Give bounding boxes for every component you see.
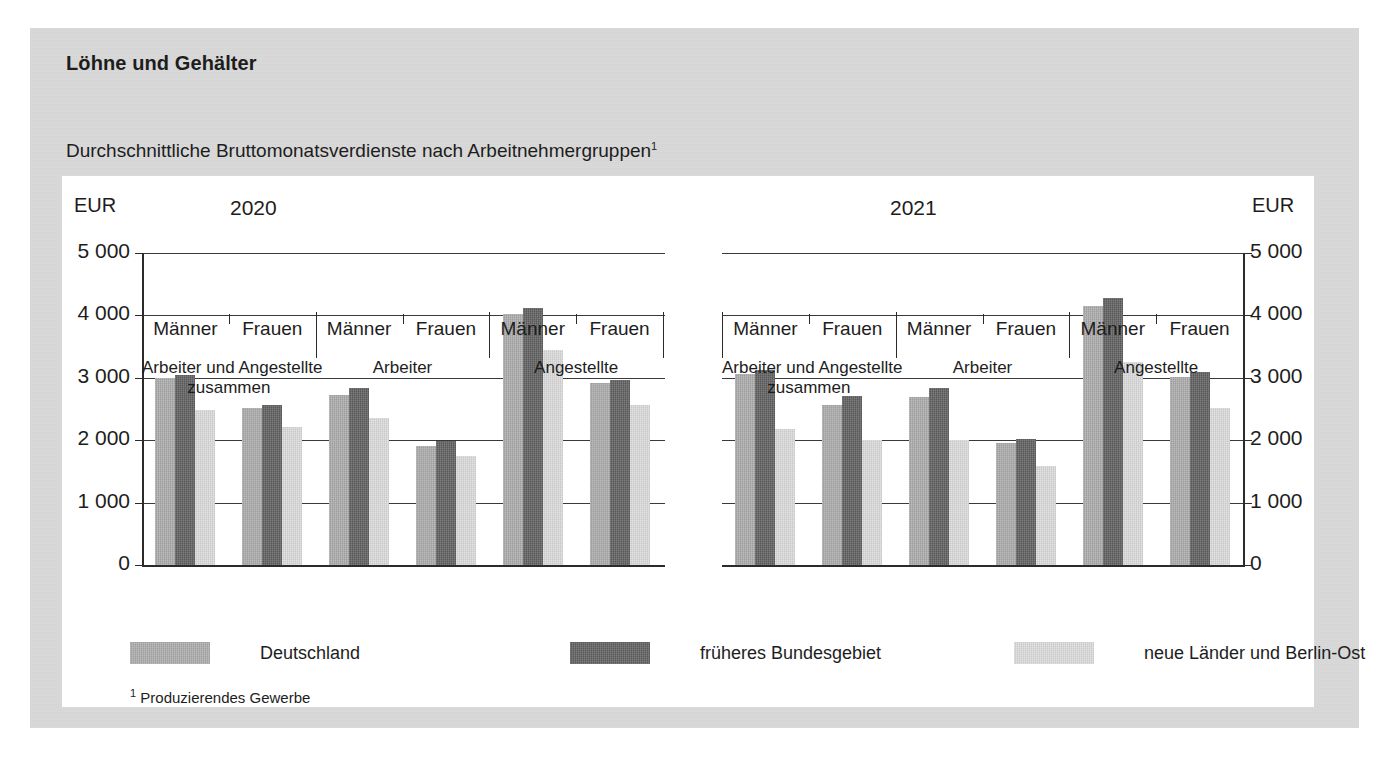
- x-axis-label-männer: Männer: [489, 318, 576, 340]
- bar: [543, 350, 563, 565]
- x-axis-minor-separator: [403, 314, 404, 324]
- legend-item[interactable]: neue Länder und Berlin-Ost: [1014, 640, 1365, 666]
- bar: [949, 440, 969, 565]
- x-axis-group-separator: [489, 312, 490, 358]
- chart-subtitle: Durchschnittliche Bruttomonatsverdienste…: [66, 140, 657, 162]
- x-axis-group-label: Angestellte: [489, 358, 663, 378]
- bar: [929, 388, 949, 565]
- bar: [630, 405, 650, 565]
- y-tick-label-right: 4 000: [1250, 301, 1303, 325]
- bar: [755, 370, 775, 565]
- legend-label: neue Länder und Berlin-Ost: [1144, 643, 1365, 664]
- axis-tick: [135, 565, 144, 566]
- bars-layer-2021: [722, 253, 1243, 565]
- x-axis-group-label-line1: Arbeiter und Angestellte: [142, 358, 316, 378]
- x-axis-label-frauen: Frauen: [403, 318, 490, 340]
- x-axis-label-frauen: Frauen: [229, 318, 316, 340]
- page-title: Löhne und Gehälter: [66, 52, 257, 75]
- chart-panel-2021: [722, 253, 1243, 565]
- page-root: Löhne und Gehälter Durchschnittliche Bru…: [0, 0, 1391, 775]
- legend-item[interactable]: früheres Bundesgebiet: [570, 640, 881, 666]
- bar: [842, 396, 862, 565]
- bar: [862, 440, 882, 565]
- x-axis-group-label-line1: Arbeiter: [316, 358, 490, 378]
- bar: [775, 429, 795, 565]
- x-axis-minor-separator: [229, 314, 230, 324]
- bar: [996, 443, 1016, 565]
- x-axis-minor-separator: [809, 314, 810, 324]
- y-axis-unit-left: EUR: [74, 194, 116, 217]
- bar: [909, 397, 929, 565]
- x-axis-label-männer: Männer: [316, 318, 403, 340]
- legend-label: Deutschland: [260, 643, 360, 664]
- x-axis-minor-separator: [576, 314, 577, 324]
- x-axis-group-separator: [896, 312, 897, 358]
- bar: [735, 374, 755, 565]
- bar: [590, 383, 610, 565]
- x-axis-label-männer: Männer: [722, 318, 809, 340]
- x-axis-group-label-line1: Arbeiter: [896, 358, 1070, 378]
- chart-panel-2020: [142, 253, 663, 565]
- x-axis-group-label-line1: Angestellte: [489, 358, 663, 378]
- x-axis-boundary-separator: [1243, 312, 1244, 358]
- legend-item[interactable]: Deutschland: [130, 640, 360, 666]
- x-axis-label-männer: Männer: [142, 318, 229, 340]
- x-axis-group-label-line2: zusammen: [722, 378, 896, 398]
- legend-label: früheres Bundesgebiet: [700, 643, 881, 664]
- bar: [329, 395, 349, 565]
- bar: [610, 380, 630, 565]
- bar: [1083, 306, 1103, 565]
- bar: [1190, 372, 1210, 565]
- x-axis-group-separator: [1069, 312, 1070, 358]
- legend-swatch: [130, 642, 210, 664]
- y-tick-label-left: 5 000: [77, 239, 130, 263]
- legend-swatch: [570, 642, 650, 664]
- x-axis-label-männer: Männer: [896, 318, 983, 340]
- bar: [195, 410, 215, 565]
- bar: [822, 405, 842, 565]
- x-axis-minor-separator: [983, 314, 984, 324]
- panel-title-2021: 2021: [890, 196, 937, 220]
- legend: Deutschlandfrüheres Bundesgebietneue Län…: [62, 640, 1314, 676]
- x-axis-group-label: Angestellte: [1069, 358, 1243, 378]
- x-axis-group-label: Arbeiter: [896, 358, 1070, 378]
- bar: [1123, 362, 1143, 565]
- y-tick-label-right: 5 000: [1250, 239, 1303, 263]
- y-tick-label-left: 2 000: [77, 426, 130, 450]
- y-tick-label-left: 0: [118, 551, 130, 575]
- bar: [1170, 377, 1190, 565]
- legend-swatch: [1014, 642, 1094, 664]
- x-axis-label-männer: Männer: [1069, 318, 1156, 340]
- bar: [456, 456, 476, 565]
- bar: [1036, 466, 1056, 565]
- bars-layer-2020: [142, 253, 663, 565]
- bar: [523, 308, 543, 565]
- bar: [503, 314, 523, 565]
- x-axis-label-frauen: Frauen: [576, 318, 663, 340]
- footnote: 1 Produzierendes Gewerbe: [130, 687, 310, 706]
- x-axis-group-label: Arbeiter und Angestelltezusammen: [722, 358, 896, 398]
- x-axis-label-frauen: Frauen: [809, 318, 896, 340]
- x-axis-boundary-separator: [663, 312, 664, 358]
- bar: [155, 378, 175, 565]
- x-axis-group-label-line1: Angestellte: [1069, 358, 1243, 378]
- y-tick-label-left: 1 000: [77, 489, 130, 513]
- y-tick-label-left: 4 000: [77, 301, 130, 325]
- x-axis-boundary-separator: [722, 312, 723, 358]
- bar: [282, 427, 302, 565]
- bar: [369, 418, 389, 565]
- x-axis-group-label: Arbeiter und Angestelltezusammen: [142, 358, 316, 398]
- y-axis-unit-right: EUR: [1252, 194, 1294, 217]
- bar: [262, 405, 282, 565]
- footnote-marker: 1: [651, 140, 657, 152]
- x-axis-label-frauen: Frauen: [1156, 318, 1243, 340]
- bar: [175, 375, 195, 565]
- chart-subtitle-text: Durchschnittliche Bruttomonatsverdienste…: [66, 140, 651, 161]
- bar: [242, 408, 262, 565]
- footnote-text: Produzierendes Gewerbe: [136, 689, 310, 706]
- y-tick-label-right: 3 000: [1250, 364, 1303, 388]
- x-axis-boundary-separator: [142, 312, 143, 358]
- bar: [349, 388, 369, 565]
- bar: [1016, 439, 1036, 565]
- x-axis-group-label-line2: zusammen: [142, 378, 316, 398]
